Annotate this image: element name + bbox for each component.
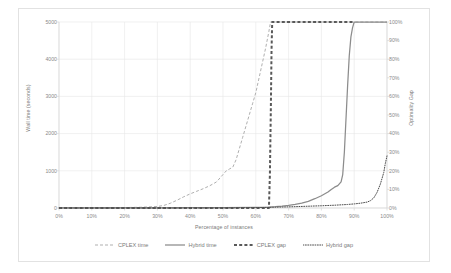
legend-swatch-thick-dashed-icon: [234, 242, 254, 248]
chart-frame: Wall time (seconds) Optimality Gap Perce…: [18, 8, 430, 262]
legend-label: Hybrid time: [188, 242, 216, 248]
series-line: [59, 22, 354, 208]
legend-swatch-dashed-icon: [95, 242, 115, 248]
plot-wrap: Wall time (seconds) Optimality Gap Perce…: [19, 9, 429, 261]
legend-label: CPLEX gap: [257, 242, 286, 248]
legend-swatch-dotted-icon: [303, 242, 323, 248]
legend-item[interactable]: Hybrid time: [165, 242, 216, 248]
chart-legend: CPLEX timeHybrid timeCPLEX gapHybrid gap: [19, 242, 429, 248]
legend-item[interactable]: Hybrid gap: [303, 242, 353, 248]
legend-item[interactable]: CPLEX time: [95, 242, 148, 248]
legend-item[interactable]: CPLEX gap: [234, 242, 286, 248]
legend-label: CPLEX time: [118, 242, 148, 248]
legend-swatch-solid-icon: [165, 242, 185, 248]
legend-label: Hybrid gap: [326, 242, 353, 248]
plot-area: [19, 9, 431, 263]
